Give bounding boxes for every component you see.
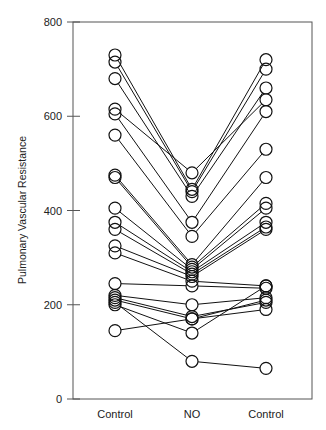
series-line (118, 60, 189, 184)
series-line (121, 301, 186, 317)
series-line (195, 93, 262, 191)
series-line (198, 302, 260, 318)
series-line (198, 286, 260, 288)
y-axis-label: Pulmonary Vascular Resistance (16, 136, 28, 284)
series-line (121, 299, 186, 315)
data-point-circle (186, 167, 198, 179)
data-point-circle (186, 216, 198, 228)
data-point-circle (186, 355, 198, 367)
series-line (121, 284, 186, 286)
series-line (118, 84, 188, 192)
x-category-label: Control (248, 408, 283, 420)
data-point-circle (260, 172, 272, 184)
data-point-circle (109, 202, 121, 214)
x-category-label: NO (184, 408, 201, 420)
data-point-circle (186, 327, 198, 339)
series-line (121, 296, 186, 304)
series-line (198, 298, 260, 304)
data-point-circle (109, 278, 121, 290)
y-tick-label: 0 (56, 393, 62, 405)
series-line (121, 255, 187, 279)
data-point-circle (186, 299, 198, 311)
series-line (195, 117, 262, 218)
data-point-circle (260, 82, 272, 94)
x-axis-labels: ControlNOControl (97, 408, 283, 420)
series-line (196, 104, 261, 169)
x-category-label: Control (97, 408, 132, 420)
data-point-circle (109, 49, 121, 61)
data-point-circle (260, 362, 272, 374)
data-point-circle (260, 303, 272, 315)
data-point-circle (109, 73, 121, 85)
data-point-circle (109, 247, 121, 259)
series-line (121, 320, 186, 330)
data-point-circle (260, 63, 272, 75)
y-axis-ticks: 0200400600800 (44, 16, 80, 405)
data-point-circle (260, 54, 272, 66)
data-point-circle (186, 230, 198, 242)
data-points (109, 49, 272, 374)
data-point-circle (260, 143, 272, 155)
series-line (119, 182, 188, 262)
series-line (198, 282, 260, 286)
series-line (195, 74, 263, 186)
data-point-circle (260, 106, 272, 118)
y-tick-label: 800 (44, 16, 62, 28)
y-tick-label: 600 (44, 110, 62, 122)
y-tick-label: 400 (44, 205, 62, 217)
data-point-circle (109, 223, 121, 235)
data-point-circle (109, 129, 121, 141)
data-point-circle (109, 240, 121, 252)
series-line (196, 182, 262, 260)
data-point-circle (260, 94, 272, 106)
data-point-circle (109, 325, 121, 337)
series-line (121, 307, 187, 331)
series-line (119, 140, 189, 232)
data-lines (118, 60, 263, 368)
series-line (197, 230, 261, 271)
series-line (197, 207, 262, 263)
y-tick-label: 200 (44, 299, 62, 311)
paired-plot: 0200400600800 ControlNOControl Pulmonary… (0, 0, 326, 430)
series-line (198, 362, 260, 368)
series-line (198, 310, 260, 318)
data-point-circle (109, 216, 121, 228)
series-line (120, 306, 187, 358)
